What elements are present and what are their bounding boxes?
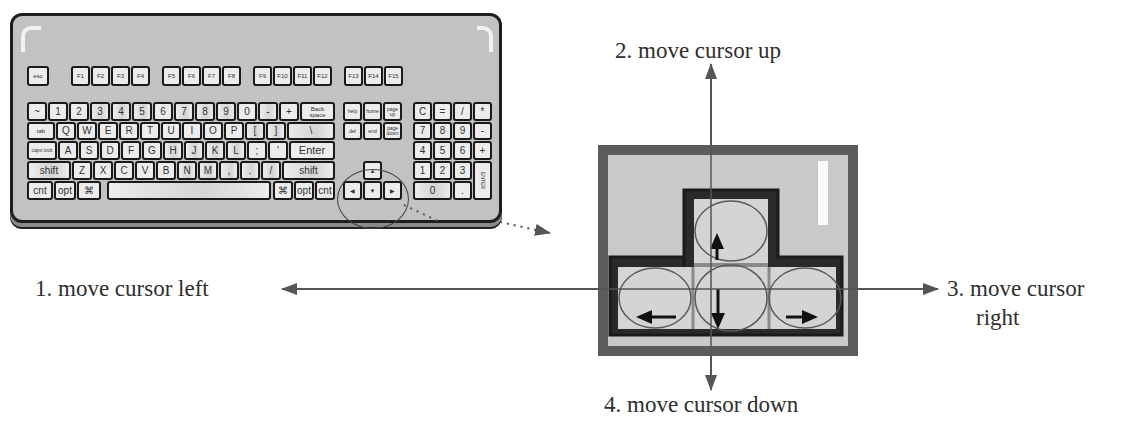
arrow-keys-enlarged — [598, 145, 858, 356]
label-move-cursor-right-line2: right — [976, 305, 1019, 330]
label-move-cursor-right-line1: 3. move cursor — [947, 276, 1084, 301]
connector-lines — [0, 0, 1143, 422]
arrow-keys-zoom-panel — [598, 145, 858, 356]
label-move-cursor-up: 2. move cursor up — [615, 38, 781, 63]
dotted-leader-arrow — [404, 205, 550, 233]
label-move-cursor-down: 4. move cursor down — [604, 392, 798, 417]
label-move-cursor-left: 1. move cursor left — [35, 276, 209, 301]
